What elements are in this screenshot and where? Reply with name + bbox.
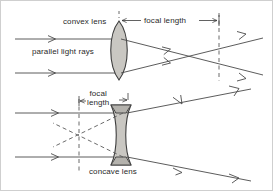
ray-arrowhead-div-upper <box>173 95 182 104</box>
incoming-parallel-rays-convex <box>15 39 117 73</box>
refracted-diverging-rays <box>127 89 251 181</box>
label-focal-length-concave-line1: focal <box>87 89 109 98</box>
ray-arrowhead-div-lower <box>173 168 182 175</box>
lens-optics-figure: convex lens focal length parallel light … <box>0 0 273 191</box>
label-convex-lens: convex lens <box>63 17 106 26</box>
label-parallel-light-rays: parallel light rays <box>32 47 94 56</box>
incoming-parallel-rays-concave <box>15 113 119 157</box>
label-focal-length-concave-line2: length <box>87 98 109 107</box>
refracted-converging-rays <box>121 38 263 75</box>
ray-arrowhead-div-out-upper <box>229 86 239 96</box>
optics-diagram-canvas <box>1 1 273 191</box>
label-focal-length-concave: focal length <box>87 89 109 107</box>
convex-lens-body <box>111 21 128 80</box>
virtual-focus-dashed-rays <box>53 113 123 157</box>
label-focal-length-convex: focal length <box>144 16 186 25</box>
convex-lens-diagram <box>15 11 263 81</box>
ray-arrowhead-conv-out-lower <box>237 73 246 81</box>
ray-arrowhead-conv-out-upper <box>237 32 246 40</box>
label-concave-lens: concave lens <box>89 167 137 176</box>
